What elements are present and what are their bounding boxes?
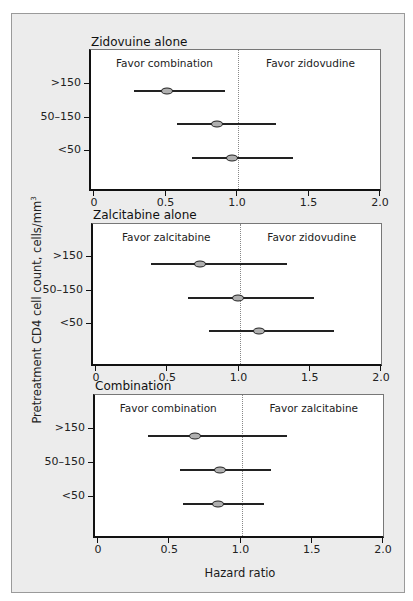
panel-title: Zalcitabine alone: [93, 208, 197, 222]
y-tick-label: 50–150: [23, 283, 83, 296]
x-tick-label: 1.5: [301, 371, 319, 384]
favor-left-label: Favor combination: [116, 57, 213, 69]
reference-line: [242, 395, 243, 536]
y-tick-label: <50: [25, 489, 85, 502]
y-tick-label: <50: [23, 316, 83, 329]
y-tick: [84, 117, 89, 118]
confidence-interval: [188, 297, 315, 299]
y-tick: [84, 150, 89, 151]
hazard-ratio-marker: [189, 433, 201, 440]
hazard-ratio-marker: [161, 88, 173, 95]
x-axis-label: Hazard ratio: [205, 566, 276, 580]
y-tick-label: <50: [21, 143, 81, 156]
confidence-interval: [148, 435, 286, 437]
x-tick-label: 1.5: [300, 196, 318, 209]
plot-area: Favor combinationFavor zalcitabine: [93, 394, 384, 538]
y-tick-label: >150: [21, 76, 81, 89]
x-tick-label: 1.5: [303, 543, 321, 556]
reference-line: [238, 50, 239, 189]
x-tick-label: 0: [95, 543, 102, 556]
y-tick-label: >150: [23, 249, 83, 262]
x-tick-label: 2.0: [371, 196, 389, 209]
favor-right-label: Favor zidovudine: [267, 231, 356, 243]
y-axis-label-superscript: 3: [30, 196, 38, 200]
x-tick-label: 1.0: [230, 371, 248, 384]
y-tick-label: >150: [25, 421, 85, 434]
y-tick: [86, 256, 91, 257]
y-tick: [86, 323, 91, 324]
x-tick-label: 1.0: [228, 196, 246, 209]
hazard-ratio-marker: [211, 121, 223, 128]
confidence-interval: [134, 90, 224, 92]
hazard-ratio-marker: [226, 155, 238, 162]
x-tick-label: 1.0: [232, 543, 250, 556]
hazard-ratio-marker: [212, 501, 224, 508]
panel-title: Combination: [95, 379, 171, 393]
y-axis-label: Pretreatment CD4 cell count, cells/mm3: [30, 196, 44, 423]
y-tick: [88, 428, 93, 429]
hazard-ratio-marker: [214, 467, 226, 474]
favor-right-label: Favor zalcitabine: [269, 402, 358, 414]
y-tick: [88, 462, 93, 463]
favor-right-label: Favor zidovudine: [266, 57, 355, 69]
confidence-interval: [209, 330, 334, 332]
y-axis-label-text: Pretreatment CD4 cell count, cells/mm: [30, 201, 44, 424]
hazard-ratio-marker: [194, 261, 206, 268]
y-tick: [88, 496, 93, 497]
panel-title: Zidovuine alone: [91, 35, 187, 49]
hazard-ratio-marker: [253, 328, 265, 335]
confidence-interval: [151, 263, 288, 265]
y-tick-label: 50–150: [25, 455, 85, 468]
confidence-interval: [177, 123, 276, 125]
x-tick-label: 2.0: [372, 371, 390, 384]
y-tick: [86, 290, 91, 291]
y-tick-label: 50–150: [21, 110, 81, 123]
y-tick: [84, 83, 89, 84]
favor-left-label: Favor combination: [120, 402, 217, 414]
x-tick-label: 0.5: [161, 543, 179, 556]
x-tick-label: 2.0: [374, 543, 392, 556]
hazard-ratio-marker: [232, 295, 244, 302]
confidence-interval: [192, 157, 294, 159]
favor-left-label: Favor zalcitabine: [122, 231, 211, 243]
plot-area: Favor combinationFavor zidovudine: [89, 49, 381, 191]
